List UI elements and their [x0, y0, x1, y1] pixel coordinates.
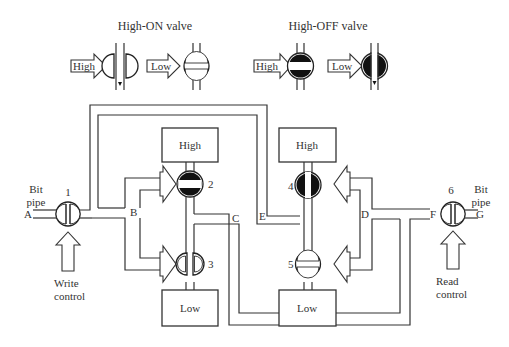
node-c-label: C: [232, 212, 239, 224]
read-control-label-line2: control: [436, 288, 467, 300]
high-off-valve-title: High-OFF valve: [289, 19, 368, 33]
legend: High-ON valve High-OFF valve High Low: [71, 19, 388, 90]
valve-2-number: 2: [208, 178, 214, 190]
node-f-label: F: [430, 208, 436, 220]
node-b-label: B: [130, 206, 137, 218]
valve-4-icon: [295, 172, 321, 198]
write-control-arrow: [56, 232, 80, 271]
node-g-label: G: [476, 208, 484, 220]
valve-1-icon: [56, 202, 80, 226]
legend-high-on-low-valve-icon: Low: [147, 43, 209, 90]
right-low-tank-label: Low: [297, 302, 317, 314]
legend-high-off-low-valve-icon: Low: [328, 43, 388, 90]
write-control-label-line2: control: [54, 290, 85, 302]
left-high-tank-label: High: [179, 139, 202, 151]
valve-3-number: 3: [208, 258, 214, 270]
node-e-label: E: [259, 210, 266, 222]
right-high-tank-label: High: [296, 139, 319, 151]
bit-pipe-left-label-line1: Bit: [29, 183, 42, 195]
node-a-label: A: [24, 208, 32, 220]
valve5-control-arrow: [334, 246, 350, 282]
pipe-network: [33, 105, 478, 325]
valve-5-number: 5: [288, 258, 294, 270]
valve3-control-arrow: [160, 246, 176, 282]
valve-6-icon: [441, 202, 465, 226]
valve2-control-arrow: [160, 166, 176, 202]
legend-low-label-2: Low: [332, 60, 352, 72]
left-low-tank-label: Low: [180, 302, 200, 314]
bit-pipe-right-label-line2: pipe: [472, 196, 491, 208]
high-on-valve-title: High-ON valve: [118, 19, 192, 33]
node-d-label: D: [361, 208, 369, 220]
legend-high-on-high-valve-icon: High: [71, 43, 138, 90]
legend-low-label: Low: [151, 60, 171, 72]
valve-6-number: 6: [448, 184, 454, 196]
bit-pipe-left-label-line2: pipe: [27, 196, 46, 208]
read-control-arrow: [441, 231, 465, 269]
fluidic-memory-diagram: High-ON valve High-OFF valve High Low: [0, 0, 509, 347]
read-control-label-line1: Read: [436, 275, 459, 287]
legend-high-label: High: [73, 60, 96, 72]
bit-pipe-right-label-line1: Bit: [474, 183, 487, 195]
valve4-control-arrow: [334, 166, 350, 202]
write-control-label-line1: Write: [54, 277, 79, 289]
valve-3-icon: [176, 253, 204, 275]
legend-high-off-high-valve-icon: High: [254, 43, 314, 90]
valve-2-icon: [177, 171, 203, 197]
valve-5-icon: [296, 250, 321, 278]
legend-high-label-2: High: [256, 60, 279, 72]
valve-4-number: 4: [288, 180, 294, 192]
valve-1-number: 1: [65, 186, 71, 198]
